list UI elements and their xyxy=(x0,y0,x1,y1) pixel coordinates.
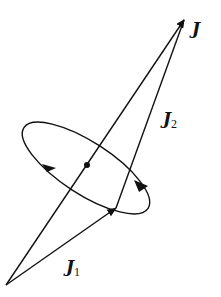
label-j1: J1 xyxy=(63,256,80,279)
label-j2: J2 xyxy=(160,108,177,131)
precession-ellipse xyxy=(10,106,162,230)
vector-j2 xyxy=(116,20,184,208)
precession-center-dot xyxy=(84,162,90,168)
angular-momentum-diagram: J J2 J1 xyxy=(0,0,221,297)
vector-j1 xyxy=(6,208,116,285)
label-j-total: J xyxy=(189,18,201,38)
vector-j-total xyxy=(6,20,184,285)
